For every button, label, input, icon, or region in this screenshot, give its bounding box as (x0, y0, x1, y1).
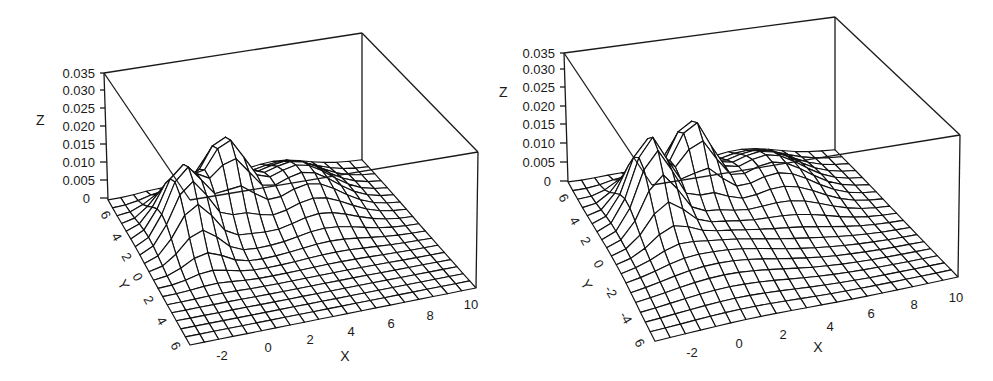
z-tick-labels-right: 0 0.005 0.010 0.015 0.020 0.025 0.030 0.… (522, 46, 555, 189)
x-tick-label: 2 (779, 327, 786, 342)
y-tick-label: 2 (577, 234, 594, 248)
mesh-right (568, 121, 958, 341)
y-tick-label: -4 (616, 309, 635, 327)
y-tick-label: 0 (590, 257, 607, 271)
surface-plot-right: 0 0.005 0.010 0.015 0.020 0.025 0.030 0.… (0, 0, 993, 381)
z-tick-label: 0.020 (522, 99, 555, 114)
z-tick-label: 0.030 (522, 62, 555, 77)
y-tick-label: 6 (631, 336, 648, 350)
y-tick-label: -2 (601, 283, 620, 301)
x-tick-label: -2 (686, 345, 698, 360)
z-tick-label: 0.005 (522, 155, 555, 170)
z-tick-label: 0.015 (522, 117, 555, 132)
figure: 0 0.005 0.010 0.015 0.020 0.025 0.030 0.… (0, 0, 993, 381)
x-tick-label: 4 (826, 319, 833, 334)
x-axis-label-right: X (813, 339, 823, 355)
x-tick-label: 10 (949, 290, 963, 305)
x-tick-label: 6 (867, 306, 874, 321)
y-axis-label-right: Y (577, 277, 596, 294)
z-tick-label: 0.035 (522, 46, 555, 61)
z-tick-label: 0 (544, 174, 551, 189)
x-tick-label: 8 (910, 297, 917, 312)
x-tick-label: 0 (735, 336, 742, 351)
y-tick-label: 4 (566, 214, 583, 228)
y-tick-label: 6 (555, 191, 572, 205)
z-axis-label-right: Z (499, 84, 508, 100)
z-tick-label: 0.025 (522, 80, 555, 95)
z-tick-label: 0.010 (522, 136, 555, 151)
